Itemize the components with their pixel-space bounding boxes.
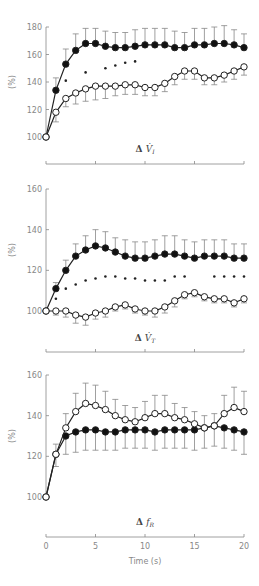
open-marker: [63, 425, 69, 431]
open-marker: [201, 425, 207, 431]
open-marker: [162, 80, 168, 86]
x-axis-label: Time (s): [128, 557, 162, 566]
y-tick-label: 100: [27, 307, 42, 316]
significance-dot: [84, 71, 87, 74]
y-tick-label: 100: [27, 493, 42, 502]
open-marker: [112, 83, 118, 89]
open-marker: [73, 408, 79, 414]
significance-dot: [243, 275, 246, 278]
open-marker: [92, 310, 98, 316]
filled-marker: [241, 255, 247, 261]
significance-dot: [124, 61, 127, 64]
filled-marker: [132, 43, 138, 49]
filled-marker: [73, 429, 79, 435]
x-tick-label: 5: [93, 542, 98, 551]
filled-marker: [241, 44, 247, 50]
y-tick-label: 140: [27, 226, 42, 235]
filled-marker: [181, 44, 187, 50]
open-marker: [132, 82, 138, 88]
significance-dot: [114, 64, 117, 67]
open-marker: [172, 298, 178, 304]
significance-dot: [65, 287, 68, 290]
significance-dot: [183, 275, 186, 278]
y-tick-label: 120: [27, 106, 42, 115]
significance-dot: [223, 275, 226, 278]
filled-marker: [231, 255, 237, 261]
significance-dot: [74, 283, 77, 286]
open-marker: [132, 419, 138, 425]
open-marker: [122, 302, 128, 308]
filled-marker: [92, 40, 98, 46]
filled-marker: [201, 253, 207, 259]
open-marker: [82, 314, 88, 320]
y-axis-label: (%): [8, 75, 17, 89]
open-marker: [162, 410, 168, 416]
open-marker: [162, 304, 168, 310]
filled-marker: [191, 255, 197, 261]
filled-marker: [112, 249, 118, 255]
significance-dot: [84, 279, 87, 282]
open-marker: [172, 73, 178, 79]
filled-marker: [152, 42, 158, 48]
open-marker: [181, 292, 187, 298]
open-marker: [191, 68, 197, 74]
filled-marker: [191, 42, 197, 48]
filled-marker: [122, 44, 128, 50]
open-marker: [92, 402, 98, 408]
panel-variable-label: Δ fR: [136, 517, 154, 528]
filled-marker: [142, 427, 148, 433]
filled-marker: [172, 251, 178, 257]
y-tick-label: 140: [27, 412, 42, 421]
panel-variable-label: Δ V̇I: [136, 143, 156, 155]
filled-marker: [102, 245, 108, 251]
panel-variable-label: Δ V̇T: [135, 332, 157, 344]
open-marker: [211, 75, 217, 81]
filled-marker: [181, 253, 187, 259]
open-marker: [43, 308, 49, 314]
significance-dot: [114, 275, 117, 278]
significance-dot: [134, 277, 137, 280]
filled-marker: [162, 251, 168, 257]
open-marker: [152, 308, 158, 314]
filled-marker: [122, 427, 128, 433]
open-marker: [142, 308, 148, 314]
filled-marker: [162, 427, 168, 433]
open-marker: [122, 82, 128, 88]
y-tick-label: 160: [27, 185, 42, 194]
x-tick-label: 20: [239, 542, 249, 551]
x-tick-label: 10: [140, 542, 150, 551]
open-marker: [53, 451, 59, 457]
open-marker: [181, 68, 187, 74]
filled-marker: [82, 427, 88, 433]
significance-dot: [164, 279, 167, 282]
filled-marker: [231, 427, 237, 433]
filled-marker: [231, 42, 237, 48]
filled-marker: [152, 429, 158, 435]
open-marker: [231, 68, 237, 74]
significance-dot: [233, 275, 236, 278]
filled-marker: [112, 44, 118, 50]
open-marker: [122, 417, 128, 423]
filled-marker: [172, 427, 178, 433]
filled-marker: [82, 40, 88, 46]
y-tick-label: 120: [27, 266, 42, 275]
y-axis-label: (%): [8, 429, 17, 443]
open-marker: [63, 95, 69, 101]
filled-marker: [241, 429, 247, 435]
significance-dot: [104, 275, 107, 278]
filled-marker: [73, 47, 79, 53]
y-tick-label: 120: [27, 452, 42, 461]
filled-marker: [162, 42, 168, 48]
filled-marker: [92, 427, 98, 433]
panel-inspiratory-flow: 100120140160180(%)Δ V̇I: [8, 23, 247, 164]
open-marker: [221, 296, 227, 302]
open-marker: [241, 408, 247, 414]
y-tick-label: 140: [27, 78, 42, 87]
filled-marker: [53, 87, 59, 93]
open-marker: [73, 90, 79, 96]
open-marker: [152, 84, 158, 90]
open-marker: [211, 296, 217, 302]
open-marker: [132, 306, 138, 312]
open-marker: [53, 109, 59, 115]
open-marker: [63, 308, 69, 314]
